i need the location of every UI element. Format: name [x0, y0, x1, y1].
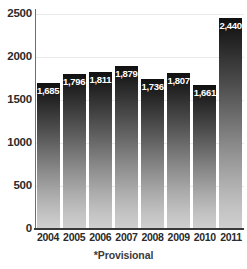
y-tick-label: 2500: [2, 8, 32, 19]
bar[interactable]: 1,685: [37, 83, 60, 228]
bar-value-label: 1,879: [115, 69, 138, 79]
x-tick-label: 2005: [63, 231, 86, 244]
x-tick-label: 2009: [167, 231, 190, 244]
x-tick-label: 2011: [219, 231, 242, 244]
y-tick-label: 1500: [2, 94, 32, 105]
bar-chart: 2500 2000 1500 1000 500 0 1,6851,7961,81…: [0, 0, 247, 269]
y-axis: 2500 2000 1500 1000 500 0: [0, 0, 32, 269]
y-tick-label: 0: [2, 223, 32, 234]
x-tick-label: 2006: [89, 231, 112, 244]
plot-area: 1,6851,7961,8111,8791,7361,8071,6612,440…: [35, 8, 244, 229]
y-tick-label: 1000: [2, 137, 32, 148]
bar[interactable]: 1,736: [141, 79, 164, 228]
bar[interactable]: 1,807: [167, 73, 190, 228]
chart-footnote: *Provisional: [0, 249, 247, 261]
x-tick-label: 2004: [37, 231, 60, 244]
bar-value-label: 1,811: [89, 75, 112, 85]
bar[interactable]: 1,879: [115, 66, 138, 228]
bar-value-label: 1,736: [141, 82, 164, 92]
x-axis: 20042005200620072008200920102011: [35, 231, 244, 247]
bar-value-label: 2,440*: [219, 21, 242, 31]
bar[interactable]: 2,440*: [219, 18, 242, 228]
bar-series: 1,6851,7961,8111,8791,7361,8071,6612,440…: [35, 8, 244, 229]
bar-value-label: 1,796: [63, 77, 86, 87]
y-tick-label: 500: [2, 180, 32, 191]
y-axis-line: [35, 9, 36, 229]
x-tick-label: 2007: [115, 231, 138, 244]
x-tick-label: 2008: [141, 231, 164, 244]
bar-value-label: 1,685: [37, 86, 60, 96]
bar[interactable]: 1,811: [89, 72, 112, 228]
y-tick-label: 2000: [2, 51, 32, 62]
bar[interactable]: 1,661: [193, 85, 216, 228]
bar[interactable]: 1,796: [63, 74, 86, 228]
x-axis-line: [34, 228, 244, 230]
x-tick-label: 2010: [193, 231, 216, 244]
bar-value-label: 1,807: [167, 76, 190, 86]
bar-value-label: 1,661: [193, 88, 216, 98]
